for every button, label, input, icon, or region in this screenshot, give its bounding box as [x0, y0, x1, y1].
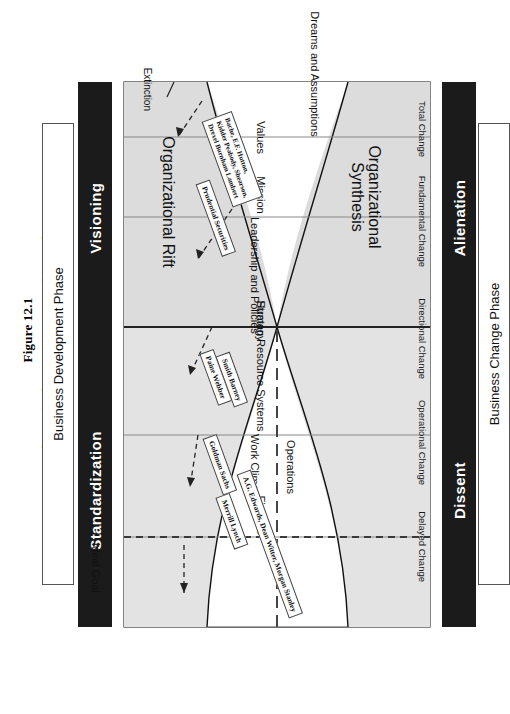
- stage-label-total-change: Total Change: [417, 101, 428, 157]
- extinction-label: Extinction: [142, 68, 153, 111]
- diagram-container: Standardization Visioning Dissent Aliena…: [112, 57, 442, 657]
- level-label-values: Values: [254, 110, 266, 165]
- zone-label-synthesis: Organizational Synthesis: [348, 117, 383, 277]
- phase-bar-visioning: Visioning: [78, 82, 112, 354]
- phase-label-dissent: Dissent: [451, 462, 468, 519]
- caption-text-bottom: Business Development Phase: [51, 267, 66, 440]
- caption-business-development-phase: Business Development Phase: [42, 123, 74, 585]
- phase-bar-dissent: Dissent: [442, 354, 476, 627]
- level-label-operations: Operations: [284, 427, 296, 507]
- stage-label-fundamental-change: Fundamental Change: [417, 176, 428, 267]
- figure-number: Figure 12.1: [20, 190, 36, 470]
- phase-label-standardization: Standardization: [87, 431, 104, 550]
- stage-label-delayed-change: Delayed Change: [417, 511, 428, 582]
- zone-label-rift: Organizational Rift: [160, 127, 177, 277]
- level-label-dreams-assumptions: Dreams and Assumptions: [308, 0, 320, 159]
- diagram-canvas: Standardization Visioning Dissent Aliena…: [112, 57, 442, 657]
- phase-bar-alienation: Alienation: [442, 82, 476, 354]
- caption-text-top: Business Change Phase: [487, 283, 502, 425]
- stage-label-operational-change: Operational Change: [417, 400, 428, 485]
- phase-label-alienation: Alienation: [451, 180, 468, 257]
- stage-label-directional-change: Directional Change: [417, 298, 428, 379]
- level-label-leadership-policies: Leadership and Policies: [248, 217, 260, 307]
- phase-label-visioning: Visioning: [87, 183, 104, 254]
- caption-business-change-phase: Business Change Phase: [478, 123, 510, 585]
- ideal-goal-label: Ideal Goal: [90, 543, 102, 593]
